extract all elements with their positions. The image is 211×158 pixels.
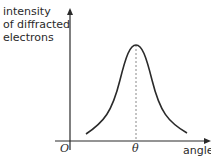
y-axis-arrow-icon	[67, 8, 73, 15]
diagram-plot	[0, 0, 211, 158]
origin-label: O	[60, 142, 69, 155]
theta-label: θ	[132, 142, 139, 155]
x-axis-label: angle	[183, 144, 211, 157]
